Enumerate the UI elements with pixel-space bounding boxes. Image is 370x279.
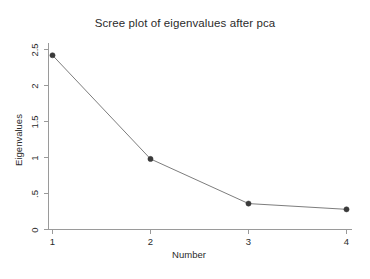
plot-canvas: 2.5 2 1.5 1 .5 0 Eigenvalues 1 2 3 4 Num…: [0, 0, 370, 279]
data-point: [344, 207, 349, 212]
y-tick-label-1: 1: [29, 155, 40, 160]
x-tick-label-4: 4: [344, 236, 349, 247]
y-tick-label-2: 2: [29, 83, 40, 88]
y-axis-title: Eigenvalues: [13, 114, 24, 166]
data-point: [148, 156, 153, 161]
series-line: [53, 55, 347, 209]
x-axis-title: Number: [172, 249, 206, 260]
series-markers: [50, 53, 349, 212]
x-tick-label-3: 3: [246, 236, 251, 247]
scree-plot-figure: Scree plot of eigenvalues after pca 2.5 …: [0, 0, 370, 279]
y-tick-label-1-5: 1.5: [29, 115, 40, 128]
x-tick-label-2: 2: [148, 236, 153, 247]
x-tick-label-1: 1: [50, 236, 55, 247]
y-tick-label-0-5: .5: [29, 190, 40, 198]
data-series-eigenvalues: [50, 53, 349, 212]
y-tick-label-2-5: 2.5: [29, 43, 40, 56]
data-point: [50, 53, 55, 58]
data-point: [246, 201, 251, 206]
y-tick-label-0: 0: [29, 227, 40, 232]
